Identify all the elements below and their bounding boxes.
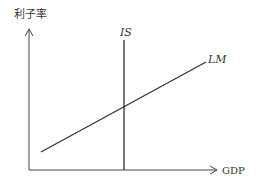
y-axis [25,29,33,170]
x-axis [29,166,217,174]
is-label: IS [119,26,132,39]
y-axis-label: 利子率 [14,7,47,21]
lm-label: LM [207,53,227,66]
x-axis-label: GDP [222,165,245,176]
islm-diagram: 利子率 GDP IS LM [0,0,256,186]
